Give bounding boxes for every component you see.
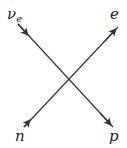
arrow-n-icon	[24, 120, 30, 127]
label-electron: e	[110, 5, 119, 23]
interaction-diagram: νe e n p	[0, 0, 127, 148]
label-neutrino: νe	[7, 5, 22, 24]
line-n-to-e	[24, 27, 118, 127]
label-neutron: n	[15, 127, 25, 145]
arrow-p-icon	[100, 113, 111, 125]
arrow-nu-icon	[18, 24, 28, 35]
line-nu-to-p	[18, 24, 113, 127]
arrow-e-icon	[105, 29, 116, 41]
label-proton: p	[109, 127, 119, 145]
